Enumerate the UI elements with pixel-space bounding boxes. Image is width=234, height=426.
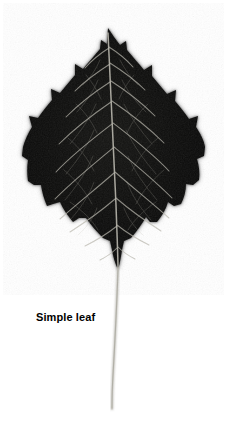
figure-caption: Simple leaf xyxy=(36,310,95,324)
leaf-photograph xyxy=(0,0,234,426)
leaf-figure: Simple leaf xyxy=(0,0,234,426)
